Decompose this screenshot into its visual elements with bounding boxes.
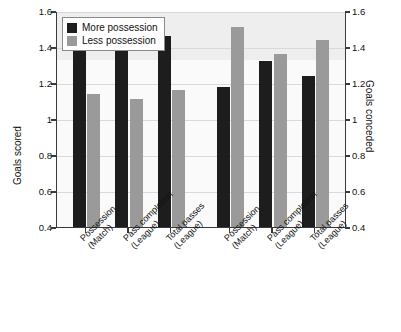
bar-less-possession — [231, 27, 244, 227]
y-tick-label-right: 0.4 — [352, 223, 365, 233]
bar-more-possession — [73, 40, 86, 227]
y-tick-label-left: 0.8 — [39, 151, 52, 161]
gridline — [57, 12, 345, 13]
legend-item-less: Less possession — [67, 34, 158, 47]
y-tick-label-left: 0.6 — [39, 187, 52, 197]
y-tick-label-right: 1.4 — [352, 43, 365, 53]
bar-more-possession — [259, 61, 272, 227]
y-tick-mark-right — [345, 155, 350, 156]
y-tick-label-left: 1 — [47, 115, 52, 125]
legend-label-less-possession: Less possession — [82, 35, 156, 46]
legend-label-more-possession: More possession — [82, 22, 158, 33]
y-tick-label-right: 1 — [352, 115, 357, 125]
y-tick-mark-right — [345, 11, 350, 12]
y-tick-label-right: 1.6 — [352, 7, 365, 17]
y-tick-label-right: 0.8 — [352, 151, 365, 161]
bar-less-possession — [87, 94, 100, 227]
y-tick-label-left: 1.6 — [39, 7, 52, 17]
chart-legend: More possession Less possession — [62, 17, 165, 51]
bar-less-possession — [274, 54, 287, 227]
y-tick-label-left: 1.4 — [39, 43, 52, 53]
chart-figure: 0.40.60.811.21.41.6 Goals scored 0.40.60… — [0, 0, 401, 332]
y-tick-mark-right — [345, 83, 350, 84]
bar-less-possession — [130, 99, 143, 227]
y-tick-mark-right — [345, 191, 350, 192]
bar-more-possession — [217, 87, 230, 227]
y-tick-label-left: 1.2 — [39, 79, 52, 89]
bar-more-possession — [115, 38, 128, 227]
legend-swatch-more-possession — [67, 23, 77, 33]
y-tick-mark-right — [345, 47, 350, 48]
legend-swatch-less-possession — [67, 36, 77, 46]
y-tick-label-right: 0.6 — [352, 187, 365, 197]
y-tick-label-left: 0.4 — [39, 223, 52, 233]
y-tick-mark-right — [345, 119, 350, 120]
y-axis-left-title: Goals scored — [12, 126, 23, 185]
legend-item-more: More possession — [67, 21, 158, 34]
y-axis-right-title: Goals conceded — [364, 80, 375, 152]
